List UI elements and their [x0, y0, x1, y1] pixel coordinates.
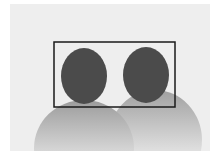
person-right-head — [123, 47, 169, 103]
figure-canvas: Two person silhouettes with a detection … — [0, 0, 216, 159]
two-person-illustration — [0, 0, 216, 159]
person-left-head — [61, 48, 107, 104]
